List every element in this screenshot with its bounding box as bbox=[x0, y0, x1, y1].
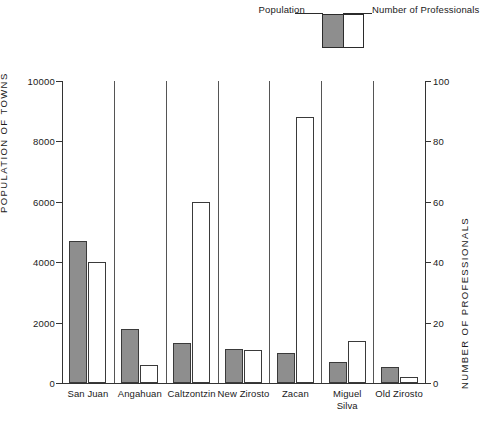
y-axis-right-tick bbox=[425, 383, 431, 384]
y-axis-left-tick bbox=[56, 202, 62, 203]
bar-population bbox=[329, 362, 347, 383]
y-axis-left-line bbox=[62, 81, 63, 383]
y-axis-left-tick bbox=[56, 81, 62, 82]
y-axis-left-tick-label: 0 bbox=[50, 378, 55, 389]
y-axis-right-tick bbox=[425, 262, 431, 263]
group-separator bbox=[166, 81, 167, 383]
y-axis-left-tick-label: 6000 bbox=[33, 196, 55, 207]
y-axis-right-tick bbox=[425, 323, 431, 324]
bar-group bbox=[225, 81, 262, 383]
bar-group bbox=[277, 81, 314, 383]
x-axis-label: MiguelSilva bbox=[333, 388, 362, 411]
x-axis-label: Zacan bbox=[282, 388, 309, 400]
bar-population bbox=[173, 343, 191, 383]
x-axis-label: Caltzontzin bbox=[168, 388, 216, 400]
bar-professionals bbox=[400, 377, 418, 383]
y-axis-right-tick-label: 60 bbox=[433, 196, 444, 207]
x-axis-label-line: Zacan bbox=[282, 388, 309, 400]
bar-professionals bbox=[140, 365, 158, 383]
x-axis-label: San Juan bbox=[67, 388, 108, 400]
legend-swatch-professionals bbox=[343, 14, 364, 48]
bar-population bbox=[225, 349, 243, 383]
bar-group bbox=[69, 81, 106, 383]
y-axis-right-tick bbox=[425, 81, 431, 82]
y-axis-right-tick-label: 40 bbox=[433, 257, 444, 268]
group-separator bbox=[114, 81, 115, 383]
x-axis-label-line: Angahuan bbox=[118, 388, 162, 400]
y-axis-right-tick bbox=[425, 141, 431, 142]
y-axis-right-tick-label: 100 bbox=[433, 76, 449, 87]
bar-professionals bbox=[244, 350, 262, 383]
x-axis-label-line: Miguel bbox=[333, 388, 362, 400]
y-axis-left-tick bbox=[56, 262, 62, 263]
group-separator bbox=[321, 81, 322, 383]
bar-professionals bbox=[348, 341, 366, 383]
y-axis-right-title: NUMBER OF PROFESSIONALS bbox=[459, 217, 470, 389]
bar-professionals bbox=[296, 117, 314, 383]
y-axis-right-line bbox=[425, 81, 426, 383]
y-axis-left-tick bbox=[56, 383, 62, 384]
legend-leader-line-population bbox=[295, 13, 323, 14]
legend-leader-line-professionals bbox=[343, 13, 372, 14]
bar-population bbox=[121, 329, 139, 383]
y-axis-left-tick-label: 2000 bbox=[33, 317, 55, 328]
x-axis-label-line: Caltzontzin bbox=[168, 388, 216, 400]
y-axis-right-tick bbox=[425, 202, 431, 203]
bar-population bbox=[277, 353, 295, 383]
chart-plot: POPULATION OF TOWNS NUMBER OF PROFESSION… bbox=[0, 58, 485, 425]
legend-swatches bbox=[322, 14, 364, 48]
legend-leader-tick-professionals bbox=[343, 13, 344, 16]
bar-group bbox=[381, 81, 418, 383]
bar-professionals bbox=[88, 262, 106, 383]
bar-population bbox=[381, 367, 399, 383]
legend-swatch-population bbox=[322, 14, 343, 48]
group-separator bbox=[269, 81, 270, 383]
y-axis-right-tick-label: 20 bbox=[433, 317, 444, 328]
bar-group bbox=[329, 81, 366, 383]
x-axis-label-line: Silva bbox=[333, 400, 362, 412]
bar-population bbox=[69, 241, 87, 383]
y-axis-right-tick-label: 80 bbox=[433, 136, 444, 147]
y-axis-left-tick bbox=[56, 141, 62, 142]
y-axis-left-tick-label: 8000 bbox=[33, 136, 55, 147]
x-axis-label-line: Old Zirosto bbox=[375, 388, 423, 400]
x-axis-label-line: San Juan bbox=[67, 388, 108, 400]
y-axis-left-tick-label: 10000 bbox=[28, 76, 55, 87]
x-axis-label-line: New Zirosto bbox=[218, 388, 270, 400]
bar-professionals bbox=[192, 202, 210, 383]
group-separator bbox=[218, 81, 219, 383]
y-axis-left-title: POPULATION OF TOWNS bbox=[0, 72, 9, 213]
x-axis-label: New Zirosto bbox=[218, 388, 270, 400]
x-axis-label: Angahuan bbox=[118, 388, 162, 400]
bar-group bbox=[173, 81, 210, 383]
group-separator bbox=[373, 81, 374, 383]
bar-group bbox=[121, 81, 158, 383]
y-axis-right-tick-label: 0 bbox=[433, 378, 438, 389]
y-axis-left-tick bbox=[56, 323, 62, 324]
y-axis-left-tick-label: 4000 bbox=[33, 257, 55, 268]
x-axis-label: Old Zirosto bbox=[375, 388, 423, 400]
legend-label-professionals: Number of Professionals bbox=[372, 4, 479, 15]
chart-legend: Population Number of Professionals bbox=[0, 0, 485, 58]
